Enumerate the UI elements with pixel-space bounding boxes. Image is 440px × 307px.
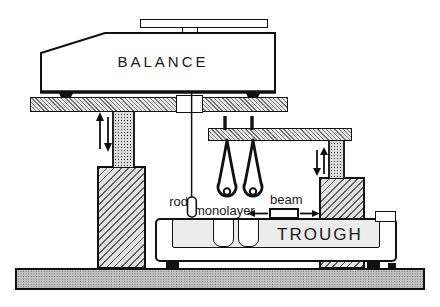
trough-foot-left [166, 262, 179, 268]
left-right-arrows-icon-beam [247, 210, 320, 217]
up-down-arrows-icon-right [313, 147, 328, 176]
hanger-pin-right [250, 116, 253, 130]
hanging-plate-right [244, 140, 262, 196]
trough-foot-right [367, 262, 380, 268]
hanger-pin-left [223, 116, 226, 130]
hanging-plate-left [218, 140, 236, 196]
trough-foot-far-right [388, 263, 396, 268]
up-down-arrows-icon-left [96, 112, 112, 152]
rod-end-plate [188, 197, 197, 217]
langmuir-balance-diagram: BALANCE TROUGH rod monolayer beam [0, 0, 440, 307]
diagram-linework [0, 0, 440, 307]
